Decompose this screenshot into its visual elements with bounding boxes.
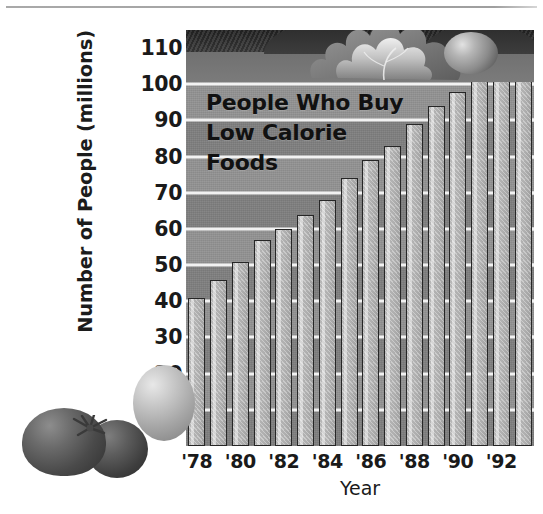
bar-highlight	[257, 241, 260, 445]
y-axis-title: Number of People (millions)	[74, 27, 97, 337]
tomato-icon-pale	[133, 365, 195, 441]
tomato-stem-icon	[70, 415, 110, 441]
y-axis-tick-label: 90	[128, 108, 182, 132]
chart-title-line-2: Low Calorie	[206, 118, 403, 148]
bar-highlight	[322, 201, 325, 445]
bar-highlight	[409, 125, 412, 445]
bar	[232, 262, 249, 446]
bar	[275, 229, 292, 446]
y-axis-tick-label: 30	[128, 325, 182, 349]
bar	[362, 160, 379, 446]
bar	[406, 124, 423, 446]
chart-title-line-3: Foods	[206, 148, 403, 178]
y-axis-tick-label: 110	[128, 36, 182, 60]
bar-highlight	[235, 263, 238, 445]
bar	[449, 92, 466, 447]
bar-highlight	[191, 299, 194, 445]
x-axis-tick-label: '84	[312, 450, 343, 472]
y-axis-tick-label: 80	[128, 145, 182, 169]
x-axis-tick-labels: '78'80'82'84'86'88'90'92	[186, 450, 534, 476]
bar-highlight	[452, 93, 455, 446]
bar	[254, 240, 271, 446]
chart-title-line-1: People Who Buy	[206, 88, 403, 118]
bar	[384, 146, 401, 446]
bar-highlight	[278, 230, 281, 445]
bar	[341, 178, 358, 446]
bar-highlight	[474, 82, 477, 445]
x-axis-tick-label: '92	[486, 450, 517, 472]
bar-chart-figure: Number of People (millions) 102030405060…	[0, 0, 543, 514]
bar-highlight	[496, 67, 499, 445]
tomato-icon-top	[444, 32, 498, 74]
bar-highlight	[213, 281, 216, 445]
x-axis-tick-label: '88	[399, 450, 430, 472]
bar	[493, 66, 510, 446]
bar	[471, 81, 488, 446]
x-axis-tick-label: '80	[225, 450, 256, 472]
x-axis-tick-label: '78	[181, 450, 212, 472]
chart-title: People Who Buy Low Calorie Foods	[206, 88, 403, 178]
x-axis-tick-label: '86	[355, 450, 386, 472]
bar-highlight	[300, 216, 303, 446]
bar	[319, 200, 336, 446]
x-axis-title: Year	[186, 477, 534, 499]
y-axis-tick-label: 50	[128, 253, 182, 277]
y-axis-tick-label: 100	[128, 72, 182, 96]
x-axis-tick-label: '82	[268, 450, 299, 472]
bar-highlight	[431, 107, 434, 445]
y-axis-tick-label: 70	[128, 181, 182, 205]
bar	[188, 298, 205, 446]
x-axis-tick-label: '90	[442, 450, 473, 472]
bar	[210, 280, 227, 446]
bar-highlight	[387, 147, 390, 445]
plot-area: People Who Buy Low Calorie Foods	[186, 30, 534, 446]
bar-highlight	[518, 53, 521, 445]
bar-highlight	[365, 161, 368, 445]
bar	[297, 215, 314, 447]
y-axis-tick-label: 60	[128, 217, 182, 241]
bar-highlight	[344, 179, 347, 445]
bar	[515, 52, 532, 446]
bar	[428, 106, 445, 446]
y-axis-tick-label: 40	[128, 289, 182, 313]
